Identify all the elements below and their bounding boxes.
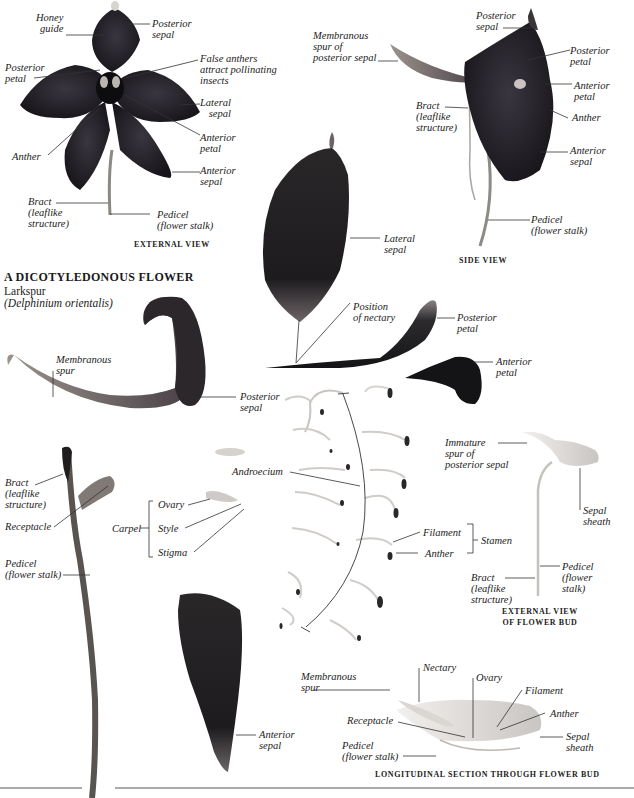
label-anther-stamen: Anther [425,548,454,559]
label-ls-sepal-sheath: Sepal sheath [566,731,593,753]
label-lateral-sepal: Lateral sepal [200,97,231,119]
label-posterior-sepal-specimen: Posterior sepal [240,391,280,413]
label-bud-pedicel: Pedicel (flower stalk) [562,561,593,594]
label-androecium: Androecium [232,466,283,477]
label-anther: Anther [12,151,41,162]
label-ls-filament: Filament [525,685,563,696]
label-anterior-petal: Anterior petal [200,132,236,154]
common-name: Larkspur [4,285,194,297]
label-ls-membranous-spur: Membranous spur [301,671,356,693]
plate-title-block: A DICOTYLEDONOUS FLOWER Larkspur (Delphi… [4,270,194,310]
label-position-of-nectary: Position of nectary [353,301,395,323]
caption-external-view: EXTERNAL VIEW [134,239,210,250]
plate-title: A DICOTYLEDONOUS FLOWER [4,270,194,285]
label-anterior-petal-specimen: Anterior petal [496,356,532,378]
label-anterior-sepal: Anterior sepal [200,165,236,187]
label-style: Style [158,523,178,534]
label-ls-anther: Anther [550,708,579,719]
label-side-bract: Bract (leaflike structure) [416,100,457,133]
lateral-sepal-specimen [263,132,380,322]
label-side-anther: Anther [572,112,601,123]
label-carpel: Carpel [112,523,141,534]
label-false-anthers: False anthers attract pollinating insect… [200,53,277,86]
label-receptacle-specimen: Receptacle [5,521,51,532]
caption-longitudinal-section: LONGITUDINAL SECTION THROUGH FLOWER BUD [375,769,600,780]
label-membranous-spur-specimen: Membranous spur [56,354,111,376]
carpel-specimen [140,448,245,557]
label-side-posterior-petal: Posterior petal [570,45,610,67]
label-ls-ovary: Ovary [476,672,502,683]
label-lateral-sepal-specimen: Lateral sepal [384,233,415,255]
label-side-posterior-sepal: Posterior sepal [476,10,516,32]
label-pedicel: Pedicel (flower stalk) [157,209,213,231]
label-side-membranous-spur: Membranous spur of posterior sepal [313,30,376,63]
label-posterior-sepal: Posterior sepal [152,18,192,40]
label-immature-spur: Immature spur of posterior sepal [445,437,508,470]
label-bract-specimen: Bract (leaflike structure) [5,477,46,510]
caption-flower-bud: EXTERNAL VIEW OF FLOWER BUD [502,606,578,628]
label-stamen: Stamen [481,535,512,546]
anterior-petal-specimen [405,357,493,404]
label-ovary: Ovary [158,499,184,510]
label-posterior-petal: Posterior petal [5,62,45,84]
label-ls-pedicel: Pedicel (flower stalk) [342,740,398,762]
label-honey-guide: Honey guide [36,12,63,34]
caption-side-view: SIDE VIEW [459,255,507,266]
label-ls-nectary: Nectary [423,662,456,673]
label-side-anterior-sepal: Anterior sepal [570,145,606,167]
stalk-specimen [35,447,115,798]
label-side-anterior-petal: Anterior petal [574,80,610,102]
label-anterior-sepal-specimen: Anterior sepal [259,729,295,751]
side-view-flower [390,8,553,246]
label-posterior-petal-specimen: Posterior petal [457,312,497,334]
label-stigma: Stigma [158,547,187,558]
anterior-sepal-specimen [178,593,256,772]
label-ls-receptacle: Receptacle [347,715,393,726]
label-bud-bract: Bract (leaflike structure) [471,572,512,605]
botanical-plate: A DICOTYLEDONOUS FLOWER Larkspur (Delphi… [0,0,634,798]
label-side-pedicel: Pedicel (flower stalk) [531,214,587,236]
label-bud-sepal-sheath: Sepal sheath [583,505,610,527]
posterior-sepal-specimen [7,297,236,409]
label-filament: Filament [423,527,461,538]
scientific-name: (Delphinium orientalis) [4,297,194,310]
androecium-stamens [280,387,479,641]
label-bract: Bract (leaflike structure) [28,196,69,229]
label-pedicel-specimen: Pedicel (flower stalk) [5,558,61,580]
